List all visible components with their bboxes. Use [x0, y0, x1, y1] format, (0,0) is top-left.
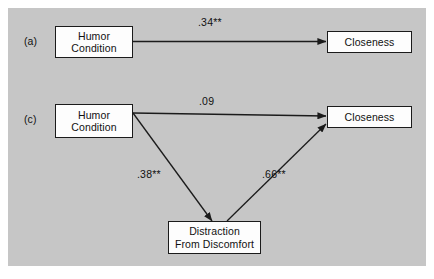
path-arrow-c-a — [133, 113, 212, 221]
edge-label-c-b: .66** — [262, 168, 286, 180]
node-distraction-from-discomfort: Distraction From Discomfort — [168, 221, 261, 254]
edge-label-c-direct: .09 — [199, 95, 214, 107]
panel-tag-c: (c) — [24, 113, 37, 125]
edge-label-a-direct: .34** — [198, 16, 222, 28]
panel-tag-a: (a) — [24, 35, 37, 47]
node-humor-condition-a: Humor Condition — [55, 26, 133, 58]
node-closeness-a: Closeness — [327, 31, 412, 53]
figure-canvas: (a) (c) Humor Condition Closeness .34** … — [0, 0, 434, 279]
node-closeness-c: Closeness — [327, 106, 412, 128]
node-humor-condition-c: Humor Condition — [55, 104, 133, 138]
edge-label-c-a: .38** — [137, 168, 161, 180]
path-arrow-c-direct — [133, 113, 326, 116]
